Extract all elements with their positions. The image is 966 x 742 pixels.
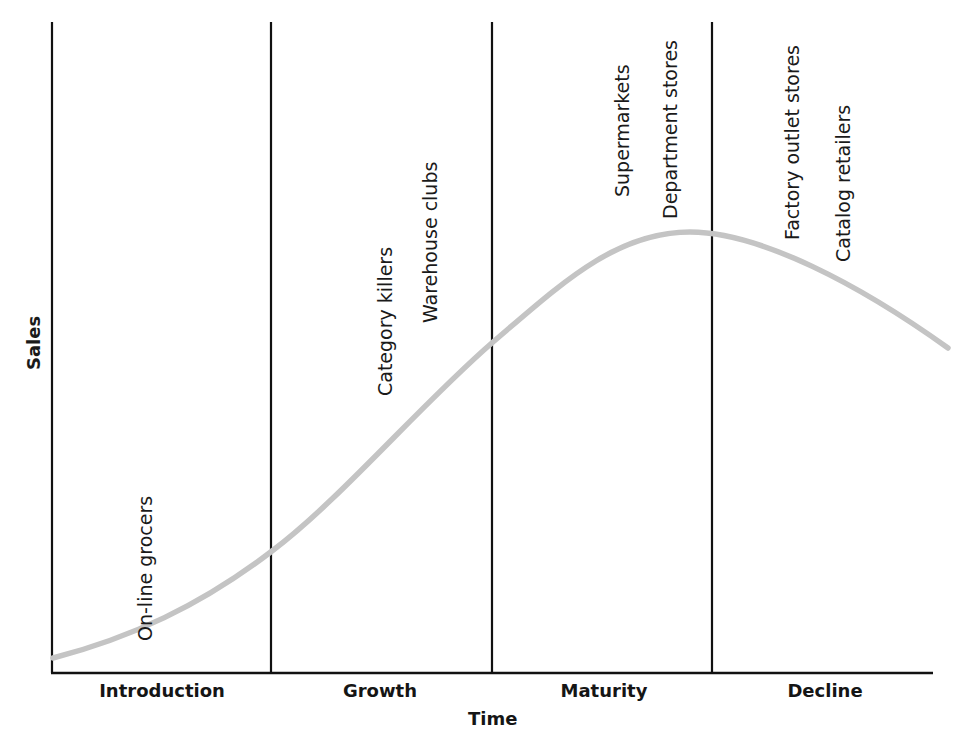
stage-growth: Growth <box>280 680 480 701</box>
x-axis-title: Time <box>468 708 517 729</box>
label-online-grocers: On-line grocers <box>133 496 157 641</box>
stage-maturity: Maturity <box>504 680 704 701</box>
label-warehouse-clubs: Warehouse clubs <box>418 162 442 323</box>
label-factory-outlet-stores: Factory outlet stores <box>780 45 804 240</box>
label-catalog-retailers: Catalog retailers <box>831 105 855 262</box>
label-department-stores: Department stores <box>658 40 682 219</box>
y-axis-title: Sales <box>22 316 46 370</box>
sales-curve <box>53 232 948 658</box>
stage-introduction: Introduction <box>62 680 262 701</box>
label-supermarkets: Supermarkets <box>610 64 634 197</box>
stage-decline: Decline <box>725 680 925 701</box>
label-category-killers: Category killers <box>373 247 397 396</box>
